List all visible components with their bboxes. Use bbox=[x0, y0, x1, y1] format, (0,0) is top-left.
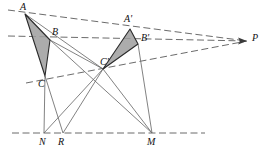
point-label-R: R bbox=[58, 137, 64, 147]
geometry-figure: A B C A' B' C' N R M P bbox=[0, 0, 271, 154]
segment-Bprime-M bbox=[138, 44, 152, 133]
segment-C-R bbox=[45, 76, 63, 133]
segment-B-M bbox=[50, 40, 152, 133]
point-label-A-prime: A' bbox=[124, 14, 132, 24]
point-label-N: N bbox=[39, 137, 46, 147]
point-label-B-prime: B' bbox=[141, 33, 149, 43]
point-label-P: P bbox=[252, 33, 258, 43]
segment-Cprime-R bbox=[63, 69, 103, 133]
figure-canvas bbox=[0, 0, 271, 154]
dashed-line-C-Cprime-P bbox=[26, 41, 247, 83]
point-label-B: B bbox=[52, 27, 58, 37]
segment-Cprime-M bbox=[103, 69, 152, 133]
point-label-M: M bbox=[147, 137, 155, 147]
point-label-C: C bbox=[38, 79, 45, 89]
point-label-C-prime: C' bbox=[100, 57, 109, 67]
point-label-A: A bbox=[20, 2, 26, 12]
